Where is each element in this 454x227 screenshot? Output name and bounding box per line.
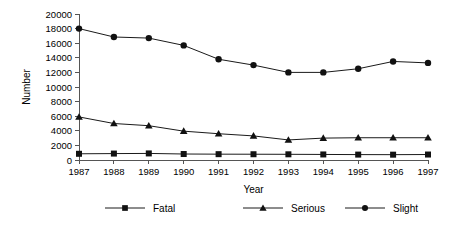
y-axis: 0200040006000800010000120001400016000180… — [21, 9, 79, 166]
line-chart: 0200040006000800010000120001400016000180… — [0, 0, 454, 227]
marker-square — [122, 205, 128, 211]
x-tick-label: 1987 — [68, 166, 89, 177]
series-slight — [76, 25, 431, 75]
x-tick-label: 1996 — [383, 166, 404, 177]
y-tick-label: 8000 — [51, 96, 72, 107]
marker-square — [216, 151, 222, 157]
marker-square — [355, 152, 361, 158]
marker-circle — [285, 69, 291, 75]
y-tick-label: 6000 — [51, 111, 72, 122]
y-tick-label: 4000 — [51, 125, 72, 136]
x-tick-label: 1993 — [278, 166, 299, 177]
marker-circle — [111, 34, 117, 40]
marker-square — [111, 151, 117, 157]
chart-canvas: 0200040006000800010000120001400016000180… — [0, 0, 454, 227]
y-tick-label: 20000 — [46, 9, 72, 20]
marker-square — [320, 151, 326, 157]
marker-circle — [320, 69, 326, 75]
y-tick-label: 0 — [67, 155, 72, 166]
x-axis: 1987198819891990199119921993199419951996… — [68, 160, 438, 195]
legend-item-fatal[interactable]: Fatal — [105, 203, 175, 214]
marker-circle — [390, 58, 396, 64]
y-tick-label: 12000 — [46, 67, 72, 78]
y-tick-label: 10000 — [46, 82, 72, 93]
y-tick-label: 2000 — [51, 140, 72, 151]
x-tick-label: 1995 — [348, 166, 369, 177]
marker-square — [146, 150, 152, 156]
series-fatal — [76, 150, 431, 157]
x-tick-label: 1997 — [417, 166, 438, 177]
marker-square — [285, 151, 291, 157]
marker-circle — [425, 60, 431, 66]
y-tick-label: 16000 — [46, 38, 72, 49]
y-tick-label: 14000 — [46, 52, 72, 63]
marker-circle — [76, 25, 82, 31]
x-tick-label: 1992 — [243, 166, 264, 177]
legend-item-slight[interactable]: Slight — [345, 203, 418, 214]
y-axis-title: Number — [21, 69, 32, 105]
marker-square — [181, 151, 187, 157]
marker-circle — [181, 42, 187, 48]
marker-circle — [362, 205, 368, 211]
legend-label: Fatal — [153, 203, 175, 214]
series-serious — [75, 113, 432, 143]
marker-square — [425, 152, 431, 158]
x-tick-label: 1989 — [138, 166, 159, 177]
x-tick-label: 1990 — [173, 166, 194, 177]
marker-square — [390, 152, 396, 158]
chart-legend: FatalSeriousSlight — [105, 203, 418, 214]
legend-item-serious[interactable]: Serious — [243, 203, 325, 214]
x-axis-title: Year — [243, 184, 264, 195]
marker-circle — [250, 62, 256, 68]
marker-square — [76, 151, 82, 157]
marker-circle — [355, 66, 361, 72]
marker-circle — [215, 56, 221, 62]
legend-label: Slight — [393, 203, 418, 214]
marker-circle — [146, 35, 152, 41]
marker-square — [251, 151, 257, 157]
x-tick-label: 1988 — [103, 166, 124, 177]
legend-label: Serious — [291, 203, 325, 214]
x-tick-label: 1994 — [313, 166, 334, 177]
x-tick-label: 1991 — [208, 166, 229, 177]
y-tick-label: 18000 — [46, 23, 72, 34]
